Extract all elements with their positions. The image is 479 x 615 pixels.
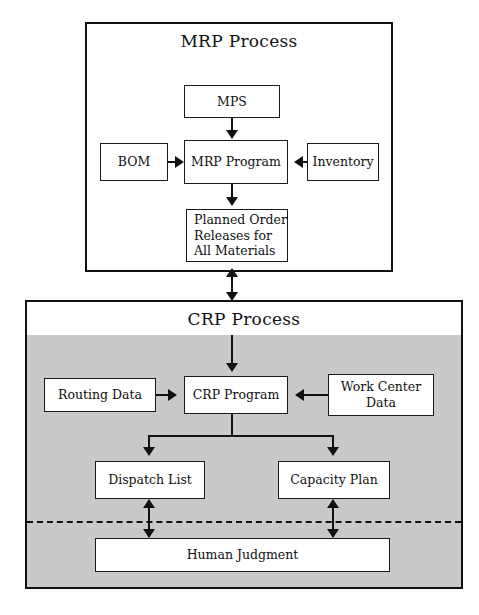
- planned-order-line-3: All Materials: [194, 243, 276, 258]
- node-dispatch-list: Dispatch List: [95, 461, 205, 499]
- arrowhead-mps-to-mrp-program-icon: [226, 130, 238, 139]
- node-work-center-data-label: Work Center Data: [329, 379, 433, 410]
- node-mps: MPS: [184, 85, 280, 118]
- arrowhead-dispatch-down-icon: [143, 529, 155, 538]
- work-center-line-1: Work Center: [341, 379, 421, 394]
- node-inventory-label: Inventory: [308, 154, 378, 170]
- arrowhead-into-crp-program-icon: [226, 363, 238, 372]
- node-crp-program: CRP Program: [184, 376, 288, 414]
- node-crp-program-label: CRP Program: [185, 387, 287, 403]
- node-planned-order-releases-label: Planned Order Releases for All Materials: [194, 212, 287, 259]
- node-human-judgment: Human Judgment: [95, 538, 390, 572]
- node-work-center-data: Work Center Data: [328, 374, 434, 416]
- connector-workcenter-to-crp-program: [300, 394, 328, 396]
- node-capacity-plan-label: Capacity Plan: [279, 472, 389, 488]
- planned-order-line-1: Planned Order: [194, 212, 287, 227]
- node-routing-data-label: Routing Data: [45, 387, 155, 403]
- arrowhead-dispatch-up-icon: [143, 499, 155, 508]
- connector-mrp-program-to-planned-order: [231, 184, 233, 198]
- connector-split-bus: [148, 435, 334, 437]
- connector-crp-program-down: [231, 414, 233, 436]
- node-human-judgment-label: Human Judgment: [96, 547, 389, 563]
- connector-into-crp-program: [231, 335, 233, 364]
- arrowhead-mrp-to-crp-icon: [226, 292, 238, 301]
- arrowhead-crp-to-mrp-icon: [226, 268, 238, 277]
- node-dispatch-list-label: Dispatch List: [96, 472, 204, 488]
- diagram-canvas: MRP Process MPS BOM MRP Program Inventor…: [0, 0, 479, 615]
- node-inventory: Inventory: [307, 143, 379, 181]
- node-mrp-program: MRP Program: [184, 140, 288, 184]
- node-mrp-program-label: MRP Program: [185, 154, 287, 170]
- automation-human-divider: [27, 521, 461, 523]
- node-planned-order-releases: Planned Order Releases for All Materials: [186, 209, 288, 262]
- node-mps-label: MPS: [185, 94, 279, 110]
- work-center-line-2: Data: [366, 395, 396, 410]
- arrowhead-mrp-program-to-planned-order-icon: [226, 197, 238, 206]
- node-routing-data: Routing Data: [44, 378, 156, 412]
- planned-order-line-2: Releases for: [194, 228, 272, 243]
- arrowhead-routing-to-crp-program-icon: [168, 389, 177, 401]
- node-bom-label: BOM: [101, 154, 167, 170]
- arrowhead-bus-to-capacity-icon: [327, 447, 339, 456]
- arrowhead-bom-to-mrp-program-icon: [175, 156, 184, 168]
- arrowhead-inventory-to-mrp-program-icon: [294, 156, 303, 168]
- arrowhead-bus-to-dispatch-icon: [143, 447, 155, 456]
- node-capacity-plan: Capacity Plan: [278, 461, 390, 499]
- node-bom: BOM: [100, 143, 168, 181]
- arrowhead-capacity-up-icon: [327, 499, 339, 508]
- arrowhead-workcenter-to-crp-program-icon: [295, 389, 304, 401]
- arrowhead-capacity-down-icon: [327, 529, 339, 538]
